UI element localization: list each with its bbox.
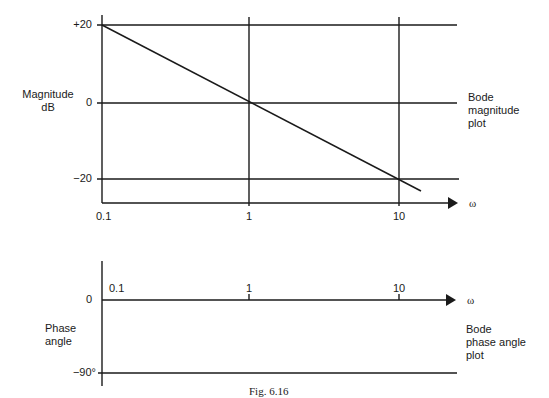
magnitude-title-line3: plot [468,117,519,130]
phase-x-axis-arrowhead [446,294,456,306]
phase-ylabel-line2: angle [45,335,76,348]
phase-plot-title: Bode phase angle plot [466,323,526,362]
phase-ylabel-line1: Phase [45,322,76,335]
magnitude-x-axis-arrowhead [448,197,458,209]
xtick-1: 1 [239,210,259,223]
phase-title-line2: phase angle [466,336,526,349]
phase-xtick-1: 1 [239,282,259,295]
phase-ytick-minus90: −90° [56,366,96,379]
ytick-minus20: −20 [58,172,92,185]
phase-xtick-10: 10 [389,282,409,295]
phase-ytick-0: 0 [58,293,92,306]
magnitude-title-line2: magnitude [468,104,519,117]
magnitude-plot-title: Bode magnitude plot [468,91,519,130]
figure-caption: Fig. 6.16 [249,385,288,397]
phase-ylabel: Phase angle [45,322,76,348]
ytick-plus20: +20 [58,18,92,31]
magnitude-xlabel-omega: ω [469,197,476,210]
magnitude-ylabel-line1: Magnitude [18,88,78,101]
xtick-10: 10 [389,210,409,223]
magnitude-ylabel: Magnitude dB [18,88,78,114]
magnitude-title-line1: Bode [468,91,519,104]
phase-xlabel-omega: ω [467,294,474,307]
xtick-0.1: 0.1 [96,210,111,223]
phase-xtick-0.1: 0.1 [109,282,124,295]
phase-title-line3: plot [466,349,526,362]
magnitude-ylabel-line2: dB [18,101,78,114]
magnitude-asymptote [102,25,421,191]
phase-title-line1: Bode [466,323,526,336]
